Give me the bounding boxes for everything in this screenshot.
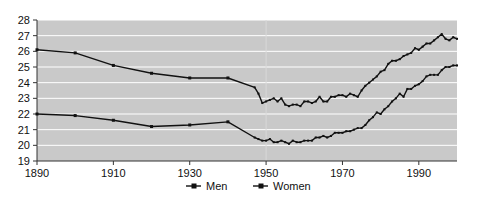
data-point xyxy=(448,66,450,68)
data-point xyxy=(254,137,256,139)
data-point xyxy=(292,140,294,142)
data-point xyxy=(319,96,321,98)
data-point xyxy=(257,138,259,140)
data-point xyxy=(349,93,351,95)
data-point xyxy=(292,104,294,106)
data-point xyxy=(403,96,405,98)
data-point xyxy=(425,75,427,77)
x-tick-label-1990: 1990 xyxy=(407,167,431,179)
data-point xyxy=(425,43,427,45)
data-point xyxy=(334,96,336,98)
legend-marker-women xyxy=(259,184,264,189)
legend-label-women: Women xyxy=(273,180,311,192)
data-point xyxy=(265,140,267,142)
data-point xyxy=(437,36,439,38)
data-point xyxy=(254,86,256,88)
y-tick-label-28: 28 xyxy=(18,14,30,26)
data-point xyxy=(307,140,309,142)
data-point xyxy=(422,46,424,48)
y-tick-label-23: 23 xyxy=(18,92,30,104)
data-point xyxy=(299,141,301,143)
data-point xyxy=(284,104,286,106)
data-point xyxy=(277,100,279,102)
data-point xyxy=(74,51,77,54)
y-tick-label-20: 20 xyxy=(18,139,30,151)
data-point xyxy=(383,69,385,71)
data-point xyxy=(383,108,385,110)
data-point xyxy=(345,130,347,132)
data-point xyxy=(273,141,275,143)
data-point xyxy=(368,119,370,121)
data-point xyxy=(361,90,363,92)
data-point xyxy=(452,36,454,38)
data-point xyxy=(261,140,263,142)
data-point xyxy=(391,100,393,102)
chart-container: 19202122232425262728 1890191019301950197… xyxy=(0,0,478,198)
data-point xyxy=(441,69,443,71)
data-point xyxy=(368,82,370,84)
data-point xyxy=(357,96,359,98)
data-point xyxy=(36,113,39,116)
data-point xyxy=(112,64,115,67)
data-point xyxy=(395,60,397,62)
data-point xyxy=(307,100,309,102)
data-point xyxy=(112,119,115,122)
data-point xyxy=(452,64,454,66)
data-point xyxy=(330,96,332,98)
data-point xyxy=(387,63,389,65)
data-point xyxy=(422,80,424,82)
data-point xyxy=(445,66,447,68)
data-point xyxy=(448,39,450,41)
chart-plot-area: 19202122232425262728 1890191019301950197… xyxy=(0,0,478,198)
x-tick-label-1890: 1890 xyxy=(25,167,49,179)
data-point xyxy=(188,76,191,79)
y-tick-label-26: 26 xyxy=(18,45,30,57)
data-point xyxy=(437,74,439,76)
data-point xyxy=(315,100,317,102)
data-point xyxy=(277,141,279,143)
data-point xyxy=(296,104,298,106)
data-point xyxy=(288,143,290,145)
data-point xyxy=(303,140,305,142)
data-point xyxy=(353,94,355,96)
plot-background-group xyxy=(37,20,457,161)
data-point xyxy=(188,123,191,126)
data-point xyxy=(456,38,458,40)
y-tick-label-21: 21 xyxy=(18,124,30,136)
data-point xyxy=(395,97,397,99)
data-point xyxy=(357,127,359,129)
data-point xyxy=(372,116,374,118)
data-point xyxy=(226,76,229,79)
data-point xyxy=(376,111,378,113)
data-point xyxy=(391,60,393,62)
data-point xyxy=(330,135,332,137)
data-point xyxy=(414,85,416,87)
data-point xyxy=(341,94,343,96)
data-point xyxy=(280,97,282,99)
legend-marker-men xyxy=(192,184,197,189)
data-point xyxy=(372,79,374,81)
data-point xyxy=(387,105,389,107)
data-point xyxy=(441,33,443,35)
data-point xyxy=(319,137,321,139)
data-point xyxy=(361,127,363,129)
data-point xyxy=(265,100,267,102)
data-point xyxy=(284,141,286,143)
data-point xyxy=(414,47,416,49)
plot-area-fill xyxy=(37,20,457,161)
data-point xyxy=(74,114,77,117)
data-point xyxy=(338,94,340,96)
data-point xyxy=(456,64,458,66)
data-point xyxy=(406,88,408,90)
data-point xyxy=(338,132,340,134)
data-point xyxy=(269,99,271,101)
data-point xyxy=(433,39,435,41)
data-point xyxy=(334,132,336,134)
data-point xyxy=(311,140,313,142)
data-point xyxy=(341,132,343,134)
data-point xyxy=(322,100,324,102)
data-point xyxy=(433,74,435,76)
data-point xyxy=(326,137,328,139)
data-point xyxy=(36,48,39,51)
x-tick-label-1930: 1930 xyxy=(177,167,201,179)
